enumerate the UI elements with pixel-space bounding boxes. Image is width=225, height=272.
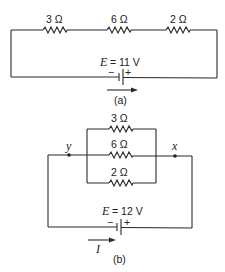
caption-b: (b) xyxy=(113,253,126,265)
resistor-b-label-bottom: 2 Ω xyxy=(111,166,128,178)
battery-a-minus: − xyxy=(108,66,114,78)
node-y-icon xyxy=(67,153,71,157)
resistor-b-label-top: 3 Ω xyxy=(111,112,128,124)
node-x-icon xyxy=(173,154,177,158)
resistor-a-label-2: 6 Ω xyxy=(111,13,128,25)
circuit-b: 3 Ω 6 Ω 2 Ω y x E = 12 V − + I (b) xyxy=(48,112,192,265)
current-arrow-b-icon xyxy=(88,238,116,243)
resistor-b-6ohm-icon xyxy=(109,152,133,158)
resistor-b-label-middle: 6 Ω xyxy=(111,138,128,150)
current-arrow-a-icon xyxy=(107,88,138,93)
resistor-a-6ohm-icon xyxy=(107,27,131,33)
caption-a: (a) xyxy=(114,94,127,106)
battery-b-plus: + xyxy=(124,216,130,228)
current-label-i: I xyxy=(95,242,101,256)
node-y-label: y xyxy=(65,139,72,153)
battery-b-minus: − xyxy=(107,216,113,228)
emf-symbol-a: E xyxy=(99,55,108,69)
resistor-b-3ohm-icon xyxy=(109,126,133,132)
resistor-a-2ohm-icon xyxy=(166,27,190,33)
wire-b-bottom xyxy=(48,227,192,228)
resistor-a-3ohm-icon xyxy=(43,27,67,33)
resistor-a-label-1: 3 Ω xyxy=(46,13,63,25)
battery-a-plus: + xyxy=(125,66,131,78)
resistor-b-2ohm-icon xyxy=(109,180,133,186)
resistor-a-label-3: 2 Ω xyxy=(170,13,187,25)
node-x-label: x xyxy=(171,139,178,153)
circuit-diagrams: 3 Ω 6 Ω 2 Ω E = 11 V − + (a) 3 Ω 6 Ω xyxy=(0,0,225,272)
circuit-a: 3 Ω 6 Ω 2 Ω E = 11 V − + (a) xyxy=(11,13,217,106)
